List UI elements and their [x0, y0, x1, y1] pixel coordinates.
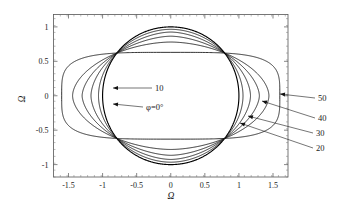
x-tick-label: 1.5 [268, 181, 278, 190]
x-tick-label: 1 [237, 181, 241, 190]
annotation-label-10: 10 [155, 83, 164, 93]
y-tick-label: 1 [45, 23, 49, 32]
frequency-response-chart: -1.5-1-0.500.511.5 10.50-0.5-1 10 φ=0° 5… [0, 0, 343, 218]
annotation-label-40: 40 [318, 113, 327, 123]
annotation-label-20: 20 [316, 143, 325, 153]
x-tick-label: -0.5 [130, 181, 143, 190]
x-axis-title: Ω [168, 191, 175, 201]
chart-root: -1.5-1-0.500.511.5 10.50-0.5-1 10 φ=0° 5… [0, 0, 343, 218]
y-tick-label: 0.5 [39, 57, 49, 66]
x-tick-label: -1 [99, 181, 106, 190]
x-tick-label: 0 [169, 181, 173, 190]
y-tick-label: 0 [45, 92, 49, 101]
annotation-label-30: 30 [316, 128, 325, 138]
y-axis-title: Ω [17, 95, 27, 102]
annotation-label-50: 50 [318, 93, 327, 103]
y-tick-label: -1 [42, 161, 49, 170]
x-tick-label: 0.5 [200, 181, 210, 190]
y-tick-label: -0.5 [36, 126, 49, 135]
annotation-label-phi0: φ=0° [146, 102, 163, 112]
x-tick-label: -1.5 [62, 181, 75, 190]
